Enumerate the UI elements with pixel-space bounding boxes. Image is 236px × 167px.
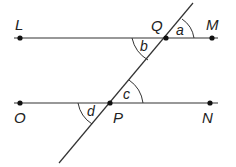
angle-label-d: d <box>87 103 96 119</box>
point-o <box>17 100 22 105</box>
point-l <box>17 35 22 40</box>
label-p: P <box>113 109 123 126</box>
angle-label-c: c <box>123 86 130 102</box>
label-m: M <box>206 16 219 33</box>
point-n <box>207 100 212 105</box>
geometry-diagram: L Q M O P N a b c d <box>0 0 236 167</box>
label-l: L <box>15 16 23 33</box>
point-p <box>107 100 112 105</box>
point-q <box>163 35 168 40</box>
angle-label-b: b <box>140 38 148 54</box>
label-o: O <box>14 109 26 126</box>
label-q: Q <box>151 17 163 34</box>
transversal <box>59 3 193 163</box>
label-n: N <box>202 109 213 126</box>
angle-c-arc <box>129 80 143 103</box>
point-m <box>209 35 214 40</box>
angle-label-a: a <box>176 22 184 38</box>
angle-a-arc <box>182 19 194 38</box>
